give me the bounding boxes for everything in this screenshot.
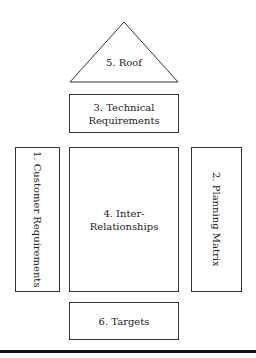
bottom-rule [0, 350, 256, 353]
roof-triangle [68, 20, 180, 84]
planning-matrix-box: 2. Planning Matrix [191, 147, 242, 292]
inter-relationships-box: 4. Inter-Relationships [69, 147, 179, 292]
technical-label-line2: Requirements [88, 114, 159, 127]
technical-requirements-box: 3. Technical Requirements [69, 94, 179, 133]
planning-matrix-label: 2. Planning Matrix [210, 172, 223, 267]
technical-label-line1: 3. Technical [88, 101, 159, 114]
customer-requirements-label: 1. Customer Requirements [31, 151, 44, 288]
targets-box: 6. Targets [69, 302, 179, 340]
customer-requirements-box: 1. Customer Requirements [15, 147, 60, 292]
targets-label: 6. Targets [99, 315, 150, 328]
roof-label: 5. Roof [68, 56, 180, 69]
inter-relationships-label: 4. Inter-Relationships [70, 207, 178, 233]
